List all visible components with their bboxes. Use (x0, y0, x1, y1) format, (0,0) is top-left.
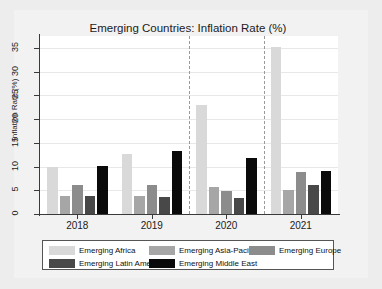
y-axis-tick (34, 72, 39, 73)
x-axis-tick-label: 2019 (122, 220, 182, 231)
bar (122, 154, 133, 214)
x-axis-line (38, 214, 340, 215)
bar (85, 196, 96, 214)
bar (47, 167, 58, 215)
bar (147, 185, 158, 214)
bar (308, 185, 319, 214)
bar (209, 187, 220, 214)
x-axis-tick (152, 215, 153, 219)
y-axis-tick (34, 48, 39, 49)
x-axis-tick (226, 215, 227, 219)
plot-area (40, 36, 338, 214)
bar (60, 196, 71, 214)
legend-swatch (249, 246, 275, 255)
y-axis-tick (34, 190, 39, 191)
y-axis-tick (34, 167, 39, 168)
legend-label: Emerging Middle East (179, 257, 257, 270)
bar (246, 158, 257, 214)
chart-title: Emerging Countries: Inflation Rate (%) (38, 20, 338, 36)
bar (72, 185, 83, 214)
chart-legend: Emerging AfricaEmerging Asia-PacificEmer… (42, 240, 334, 270)
y-axis-line (39, 34, 40, 216)
bar (321, 171, 332, 214)
legend-swatch (149, 259, 175, 268)
bar (172, 151, 183, 214)
y-axis-tick (34, 95, 39, 96)
legend-row: Emerging Latin AmericaEmerging Middle Ea… (43, 257, 335, 270)
bar (234, 198, 245, 214)
bar (221, 191, 232, 214)
bar (296, 172, 307, 214)
bar (159, 197, 170, 214)
bar (97, 166, 108, 214)
legend-label: Emerging Africa (79, 244, 135, 257)
bar (283, 190, 294, 214)
legend-row: Emerging AfricaEmerging Asia-PacificEmer… (43, 244, 335, 257)
x-axis-tick (77, 215, 78, 219)
y-axis-tick-label: 35 (10, 32, 20, 62)
bar (134, 196, 145, 215)
legend-label: Emerging Asia-Pacific (179, 244, 257, 257)
group-separator-line (189, 36, 190, 214)
bar (271, 47, 282, 214)
y-axis-tick (34, 119, 39, 120)
group-separator-line (264, 36, 265, 214)
legend-swatch (49, 259, 75, 268)
legend-swatch (49, 246, 75, 255)
legend-swatch (149, 246, 175, 255)
chart-figure: Emerging Countries: Inflation Rate (%) I… (0, 0, 382, 289)
x-axis-tick-label: 2021 (271, 220, 331, 231)
bar (196, 105, 207, 214)
x-axis-tick-label: 2020 (196, 220, 256, 231)
y-axis-tick (34, 214, 39, 215)
legend-label: Emerging Europe (279, 244, 341, 257)
y-axis-tick (34, 143, 39, 144)
x-axis-tick-label: 2018 (47, 220, 107, 231)
x-axis-tick (301, 215, 302, 219)
